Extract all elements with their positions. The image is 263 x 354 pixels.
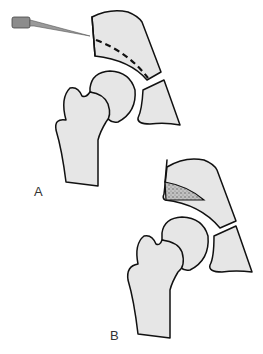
needle-icon [12, 17, 90, 36]
panel-label-b: B [110, 328, 119, 343]
panel-a [12, 11, 180, 186]
panel-label-a: A [34, 184, 43, 199]
ischium-a [138, 80, 180, 125]
femur-b [128, 236, 184, 338]
femur-a [56, 88, 110, 186]
ilium-a [92, 11, 161, 80]
ischium-b [210, 226, 252, 272]
hip-osteotomy-diagram [0, 0, 263, 354]
panel-b [128, 159, 252, 338]
